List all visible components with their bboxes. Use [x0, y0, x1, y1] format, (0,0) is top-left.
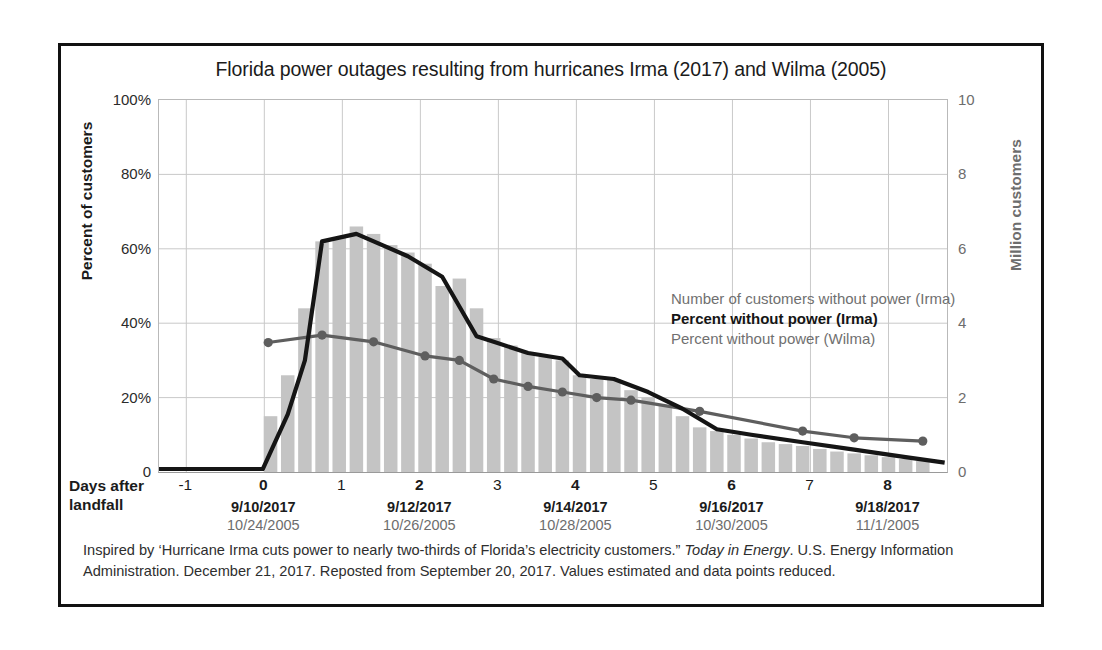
bar: [899, 459, 913, 472]
legend-entry: Percent without power (Wilma): [671, 329, 1001, 349]
data-point: [592, 393, 601, 402]
data-point: [264, 338, 273, 347]
bar: [693, 427, 707, 472]
y-axis-right-tick-label: 6: [958, 239, 998, 256]
bar: [504, 346, 517, 472]
data-point: [420, 351, 429, 360]
bar: [367, 234, 381, 472]
data-point: [369, 337, 378, 346]
x-axis-tick-label-day: 4: [530, 476, 620, 494]
bar: [401, 253, 415, 472]
bar: [538, 357, 552, 472]
x-axis-tick-label-day: 8: [842, 476, 932, 494]
data-point: [317, 331, 326, 340]
figure-frame: Florida power outages resulting from hur…: [58, 43, 1044, 607]
y-axis-left-tick-label: 80%: [81, 165, 151, 182]
bar: [556, 360, 570, 472]
x-axis-date-2017: 9/12/2017: [349, 498, 489, 516]
legend-entry: Number of customers without power (Irma): [671, 289, 1001, 309]
bar: [779, 444, 793, 472]
data-point: [523, 382, 532, 391]
y-axis-left-tick-label: 100%: [81, 91, 151, 108]
x-axis-tick-dates: 9/12/201710/26/2005: [349, 498, 489, 534]
data-point: [695, 407, 704, 416]
bar: [744, 439, 758, 472]
x-axis-tick-label-day: 6: [686, 476, 776, 494]
x-axis-date-2005: 10/28/2005: [505, 516, 645, 534]
data-point: [558, 387, 567, 396]
x-axis-tick-dates: 9/10/201710/24/2005: [193, 498, 333, 534]
bar: [332, 238, 346, 472]
y-axis-left-ticks: 020%40%60%80%100%: [73, 99, 151, 473]
y-axis-right-title: Million customers: [1007, 105, 1025, 305]
bar: [762, 442, 776, 472]
y-axis-left-tick-label: 40%: [81, 314, 151, 331]
x-axis-tick-dates: 9/16/201710/30/2005: [661, 498, 801, 534]
legend: Number of customers without power (Irma)…: [671, 289, 1001, 349]
bar: [865, 455, 879, 472]
y-axis-right-ticks: 0246810: [958, 99, 1006, 473]
x-axis-tick-label-day: -1: [140, 476, 230, 494]
x-axis-tick-label-day: 7: [764, 476, 854, 494]
bar: [796, 446, 810, 472]
plot-area: [158, 99, 948, 473]
data-point: [455, 356, 464, 365]
x-axis-date-2017: 9/10/2017: [193, 498, 333, 516]
bar: [710, 431, 724, 472]
y-axis-right-tick-label: 2: [958, 388, 998, 405]
bar: [418, 264, 432, 472]
bar: [847, 453, 861, 472]
x-axis-ticks: -109/10/201710/24/2005129/12/201710/26/2…: [158, 476, 948, 546]
x-axis-tick-label-day: 5: [608, 476, 698, 494]
bar: [727, 435, 741, 472]
bar: [521, 353, 535, 472]
legend-entry: Percent without power (Irma): [671, 309, 1001, 329]
x-axis-tick-label-day: 2: [374, 476, 464, 494]
x-axis-date-2017: 9/18/2017: [817, 498, 957, 516]
bar: [882, 457, 896, 472]
x-axis-date-2005: 10/24/2005: [193, 516, 333, 534]
bar: [350, 226, 364, 472]
data-point: [798, 426, 807, 435]
figure-caption: Inspired by ‘Hurricane Irma cuts power t…: [83, 540, 1018, 582]
x-axis-title-line1: Days after: [69, 477, 144, 494]
x-axis-title-line2: landfall: [69, 496, 123, 513]
x-axis-date-2005: 11/1/2005: [817, 516, 957, 534]
x-axis-tick-dates: 9/14/201710/28/2005: [505, 498, 645, 534]
bar: [830, 452, 844, 472]
chart-canvas: [159, 100, 947, 472]
bar: [676, 416, 690, 472]
bar: [435, 286, 449, 472]
x-axis-date-2017: 9/14/2017: [505, 498, 645, 516]
bar: [607, 379, 621, 472]
bar: [590, 379, 604, 472]
y-axis-left-tick-label: 60%: [81, 239, 151, 256]
x-axis-date-2017: 9/16/2017: [661, 498, 801, 516]
bar: [813, 449, 827, 472]
y-axis-left-tick-label: 20%: [81, 388, 151, 405]
bar: [384, 245, 398, 472]
bar: [487, 338, 501, 472]
caption-source-title: Today in Energy: [685, 542, 790, 558]
caption-text-part1: Inspired by ‘Hurricane Irma cuts power t…: [83, 542, 685, 558]
y-axis-right-tick-label: 10: [958, 91, 998, 108]
x-axis-date-2005: 10/30/2005: [661, 516, 801, 534]
x-axis-tick-label-day: 0: [218, 476, 308, 494]
data-point: [918, 437, 927, 446]
bar: [659, 405, 673, 472]
bar: [916, 461, 930, 472]
y-axis-right-tick-label: 8: [958, 165, 998, 182]
x-axis-date-2005: 10/26/2005: [349, 516, 489, 534]
y-axis-right-tick-label: 0: [958, 463, 998, 480]
bar: [641, 398, 655, 472]
data-point: [850, 433, 859, 442]
x-axis-tick-label-day: 3: [452, 476, 542, 494]
x-axis-tick-label-day: 1: [296, 476, 386, 494]
page-title: Florida power outages resulting from hur…: [61, 58, 1041, 81]
data-point: [626, 396, 635, 405]
bar: [573, 375, 587, 472]
data-point: [489, 374, 498, 383]
x-axis-tick-dates: 9/18/201711/1/2005: [817, 498, 957, 534]
